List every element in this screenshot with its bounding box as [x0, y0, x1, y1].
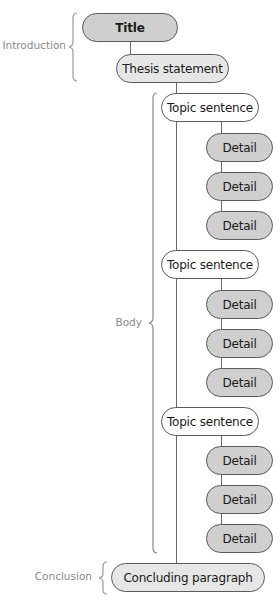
topic-sentence-node: Topic sentence [161, 93, 259, 122]
concluding-paragraph-node: Concluding paragraph [111, 563, 265, 592]
topic-sentence-node: Topic sentence [161, 407, 259, 436]
section-label-conclusion: Conclusion [35, 570, 92, 582]
topic-sentence-node: Topic sentence [161, 250, 259, 279]
detail-node: Detail [206, 172, 273, 201]
detail-node: Detail [206, 211, 273, 240]
thesis-node: Thesis statement [116, 54, 229, 83]
conclusion-brace-icon [98, 561, 108, 595]
detail-node: Detail [206, 524, 273, 553]
detail-node: Detail [206, 446, 273, 475]
body-brace-icon [148, 92, 158, 554]
detail-node: Detail [206, 485, 273, 514]
detail-node: Detail [206, 290, 273, 319]
title-node: Title [82, 13, 178, 42]
detail-node: Detail [206, 329, 273, 358]
section-label-introduction: Introduction [2, 39, 66, 51]
detail-node: Detail [206, 133, 273, 162]
introduction-brace-icon [68, 12, 78, 82]
main-spine-line [176, 82, 177, 564]
section-label-body: Body [115, 316, 142, 328]
detail-node: Detail [206, 368, 273, 397]
connector-title-thesis [130, 41, 131, 55]
